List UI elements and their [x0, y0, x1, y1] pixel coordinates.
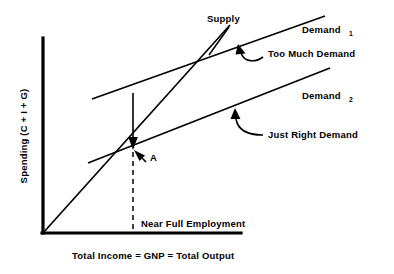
supply-label: Supply: [207, 13, 240, 24]
demand-2-label: Demand: [302, 90, 341, 101]
diagram-canvas: Supply Demand 1 Demand 2 Too Much Demand…: [0, 0, 394, 274]
point-a-pointer: [134, 150, 146, 162]
just-right-demand-callout-arrow: [231, 108, 264, 135]
supply-curve: [43, 25, 230, 233]
too-much-demand-curve: [241, 53, 263, 61]
near-full-employment-label: Near Full Employment: [141, 218, 246, 229]
just-right-demand-label: Just Right Demand: [268, 129, 358, 140]
demand-2-curve: [88, 68, 330, 163]
inflationary-gap-arrow: [128, 93, 138, 150]
demand-2-label-group: Demand 2: [302, 90, 353, 103]
y-axis-label: Spending (C + I + G): [18, 89, 29, 184]
demand-1-label: Demand: [302, 24, 341, 35]
too-much-demand-callout-arrow: [236, 44, 264, 61]
keynesian-cross-figure: Supply Demand 1 Demand 2 Too Much Demand…: [0, 0, 394, 274]
too-much-demand-label: Too Much Demand: [268, 48, 355, 59]
demand-1-label-group: Demand 1: [302, 24, 353, 37]
demand-1-subscript: 1: [349, 30, 353, 37]
demand-2-subscript: 2: [349, 96, 353, 103]
axis-group: [42, 38, 241, 233]
x-axis-label: Total Income = GNP = Total Output: [72, 250, 235, 261]
point-a-label: A: [150, 152, 157, 163]
just-right-demand-arrow-head: [231, 108, 241, 119]
just-right-demand-curve: [236, 119, 263, 135]
